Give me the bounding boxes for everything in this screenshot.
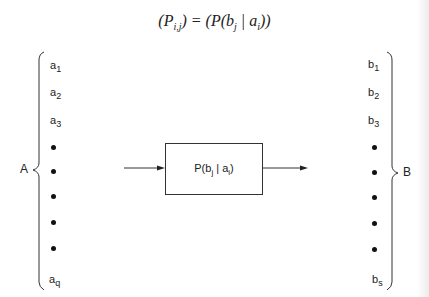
channel-probability-label: P(bj | ai)	[194, 162, 233, 177]
input-ellipsis-dot	[51, 220, 56, 225]
output-ellipsis-dot	[372, 221, 377, 226]
output-ellipsis-dot	[372, 247, 377, 252]
input-ellipsis-dot	[51, 169, 56, 174]
output-symbol-b2: b2	[368, 86, 379, 102]
input-ellipsis-dot	[51, 246, 56, 251]
right-brace-icon	[387, 52, 398, 290]
channel-box: P(bj | ai)	[165, 143, 263, 195]
output-ellipsis-dot	[372, 195, 377, 200]
output-symbol-b3: b3	[368, 114, 379, 130]
left-brace-icon	[33, 52, 44, 290]
input-symbol-a2: a2	[50, 86, 61, 102]
output-symbol-b1: b1	[368, 58, 379, 74]
input-symbol-a3: a3	[50, 114, 61, 130]
input-symbol-aq: aq	[49, 273, 60, 289]
input-ellipsis-dot	[51, 194, 56, 199]
input-ellipsis-dot	[51, 145, 56, 150]
input-arrowhead-icon	[157, 166, 165, 171]
output-ellipsis-dot	[372, 145, 377, 150]
input-symbol-a1: a1	[50, 59, 61, 75]
output-ellipsis-dot	[372, 170, 377, 175]
input-set-label: A	[20, 162, 28, 176]
output-set-label: B	[403, 165, 411, 179]
output-symbol-bs: bs	[372, 273, 383, 289]
output-arrowhead-icon	[300, 166, 308, 171]
